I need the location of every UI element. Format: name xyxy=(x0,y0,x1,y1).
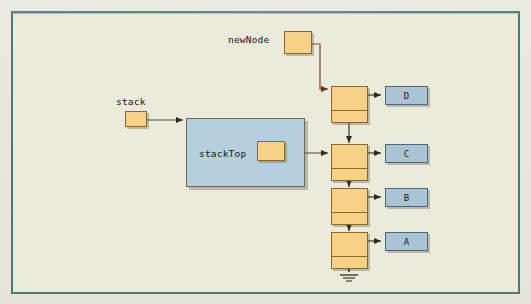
stacktop-pointer-box xyxy=(257,141,285,161)
node-d xyxy=(331,86,368,123)
null-ground-symbol xyxy=(340,275,358,281)
node-c-divider xyxy=(332,168,367,169)
node-b xyxy=(331,188,368,225)
data-box-c: C xyxy=(385,144,428,163)
diagram-canvas: stackTop stack newNode D C B xyxy=(0,0,531,304)
node-d-divider xyxy=(332,110,367,111)
node-a-divider xyxy=(332,256,367,257)
node-a xyxy=(331,232,368,269)
figure-page: stackTop stack newNode D C B xyxy=(0,0,531,304)
newnode-pointer-box xyxy=(284,31,312,54)
stack-pointer-box xyxy=(125,111,147,127)
newnode-label: newNode xyxy=(228,34,269,45)
data-box-b: B xyxy=(385,188,428,207)
stack-label: stack xyxy=(116,96,146,107)
data-box-d: D xyxy=(385,86,428,105)
node-b-divider xyxy=(332,212,367,213)
stacktop-label: stackTop xyxy=(199,148,246,159)
node-c xyxy=(331,144,368,181)
data-box-a: A xyxy=(385,232,428,251)
